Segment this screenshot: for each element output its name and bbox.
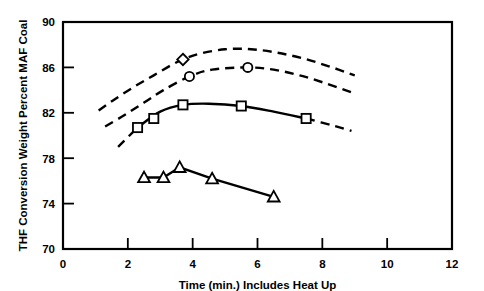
circle-dashed-curve-marker-1 <box>185 72 194 81</box>
x-tick-label-10: 10 <box>381 258 394 270</box>
chart-canvas: 707478828690024681012Time (min.) Include… <box>0 0 484 291</box>
y-tick-label-90: 90 <box>42 16 55 28</box>
square-solid-series-marker-4 <box>237 101 246 110</box>
circle-dashed-curve-line <box>105 67 351 126</box>
y-tick-label-78: 78 <box>42 153 55 165</box>
chart-figure: 707478828690024681012Time (min.) Include… <box>0 0 484 291</box>
square-solid-series-marker-2 <box>149 114 158 123</box>
y-tick-label-82: 82 <box>42 107 55 119</box>
x-tick-label-8: 8 <box>319 258 326 270</box>
x-tick-label-2: 2 <box>125 258 131 270</box>
y-axis-title: THF Conversion Weight Percent MAF Coal <box>17 20 29 252</box>
square-solid-series-marker-5 <box>302 114 311 123</box>
x-axis-title: Time (min.) Includes Heat Up <box>179 279 337 291</box>
diamond-dashed-curve-marker-1 <box>177 54 188 65</box>
circle-dashed-curve-marker-2 <box>243 63 252 72</box>
triangle-solid-series-marker-3 <box>174 161 186 172</box>
square-solid-series-marker-1 <box>133 123 142 132</box>
x-tick-label-12: 12 <box>446 258 459 270</box>
plot-frame <box>63 22 452 249</box>
x-tick-label-0: 0 <box>60 258 66 270</box>
square-solid-series-marker-3 <box>178 100 187 109</box>
y-tick-label-74: 74 <box>42 198 55 210</box>
y-tick-label-86: 86 <box>42 62 55 74</box>
x-tick-label-4: 4 <box>189 258 196 270</box>
square-solid-series-solid <box>138 104 307 128</box>
square-solid-series-dashed-tail <box>306 118 351 130</box>
y-tick-label-70: 70 <box>42 243 55 255</box>
x-tick-label-6: 6 <box>254 258 260 270</box>
